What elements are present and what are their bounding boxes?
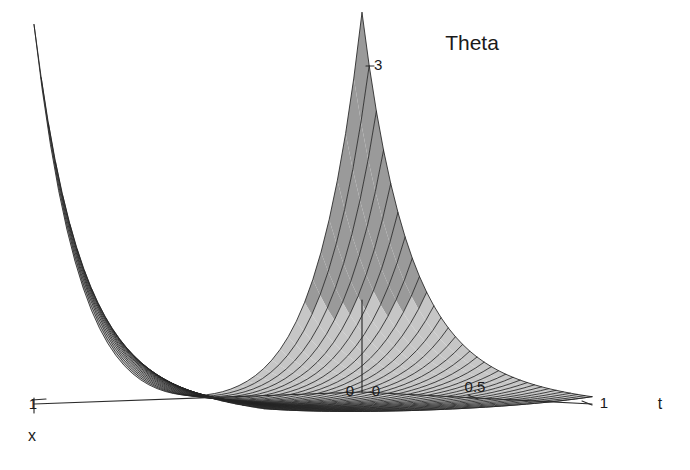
t-axis-tick-0: 0 (372, 382, 380, 399)
x-axis-tick-1: 1 (29, 395, 37, 412)
t-axis-tick-1: 1 (600, 394, 608, 411)
x-axis-name: x (28, 427, 36, 444)
surface-edge-x1 (34, 25, 264, 409)
page-title: Theta (445, 31, 499, 54)
z-axis-tick-3: 3 (374, 56, 382, 73)
surface-plot-figure: 0 0.5 1 1 0 3 t x Theta (0, 0, 690, 470)
surface-mesh (34, 13, 592, 412)
x-axis-tick-0: 0 (346, 382, 354, 399)
t-axis-name: t (658, 395, 663, 412)
plot-canvas: 0 0.5 1 1 0 3 t x Theta (0, 0, 690, 470)
t-axis-tick-0point5: 0.5 (465, 378, 486, 395)
